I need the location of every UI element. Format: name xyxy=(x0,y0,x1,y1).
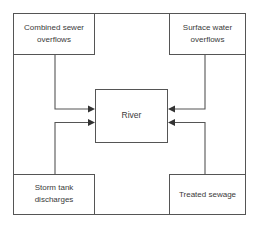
source-label-combined-sewer-overflows-line2: overflows xyxy=(37,35,71,44)
source-label-storm-tank-discharges-line1: Storm tank xyxy=(35,183,75,192)
center-box-river-label: River xyxy=(122,110,142,120)
arrow-head-combined-sewer-to-river xyxy=(88,106,95,113)
source-label-combined-sewer-overflows-line1: Combined sewer xyxy=(24,23,84,32)
connector-combined-sewer-to-river-path xyxy=(55,55,88,110)
source-box-combined-sewer-overflows: Combined sewer overflows xyxy=(14,14,95,55)
connector-surface-water-to-river xyxy=(168,55,205,113)
connector-treated-sewage-to-river xyxy=(168,119,205,175)
arrow-head-surface-water-to-river xyxy=(168,106,175,113)
diagram-canvas: Combined sewer overflows Surface water o… xyxy=(0,0,256,230)
arrow-head-storm-tank-to-river xyxy=(88,119,95,126)
center-box-river: River xyxy=(96,90,168,143)
source-label-surface-water-overflows-line1: Surface water xyxy=(183,23,233,32)
connector-surface-water-to-river-path xyxy=(175,55,205,110)
source-label-storm-tank-discharges-line2: discharges xyxy=(35,195,74,204)
source-box-surface-water-overflows-rect xyxy=(170,14,246,55)
source-box-treated-sewage: Treated sewage xyxy=(170,175,246,215)
connector-storm-tank-to-river xyxy=(55,119,95,175)
connector-storm-tank-to-river-path xyxy=(55,123,88,175)
source-box-storm-tank-discharges: Storm tank discharges xyxy=(14,175,95,215)
source-box-combined-sewer-overflows-rect xyxy=(14,14,95,55)
source-box-surface-water-overflows: Surface water overflows xyxy=(170,14,246,55)
arrow-head-treated-sewage-to-river xyxy=(168,119,175,126)
connector-combined-sewer-to-river xyxy=(55,55,95,113)
source-label-treated-sewage-line1: Treated sewage xyxy=(179,190,237,199)
connector-treated-sewage-to-river-path xyxy=(175,123,205,175)
source-label-surface-water-overflows-line2: overflows xyxy=(191,35,225,44)
pollution-sources-diagram: Combined sewer overflows Surface water o… xyxy=(0,0,256,230)
